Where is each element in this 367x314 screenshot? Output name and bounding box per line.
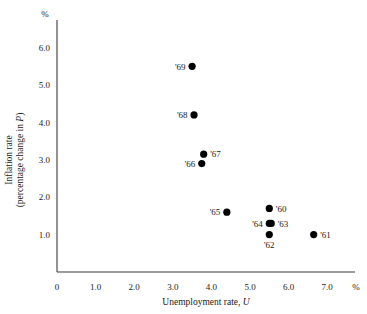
phillips-curve-chart: % % 1.02.03.04.05.06.0 01.02.03.04.05.06… (0, 0, 367, 314)
x-tick-label: 0 (55, 282, 60, 292)
x-tick-label: 3.0 (167, 282, 179, 292)
data-point-marker (190, 111, 197, 118)
y-tick-label: 3.0 (39, 155, 51, 165)
data-point-marker (200, 151, 207, 158)
data-point-marker (310, 231, 317, 238)
y-axis-title-line1: Inflation rate (4, 135, 14, 184)
data-point-label: '67 (210, 149, 221, 159)
data-point-marker (223, 209, 230, 216)
y-tick-label: 1.0 (39, 230, 51, 240)
data-point-marker (198, 160, 205, 167)
y-tick-label: 6.0 (39, 43, 51, 53)
data-point-label: '69 (175, 62, 186, 72)
x-axis-unit-label: % (352, 282, 360, 292)
data-point-label: '66 (185, 159, 196, 169)
data-point-label: '63 (278, 219, 289, 229)
y-axis-tick-labels: 1.02.03.04.05.06.0 (39, 43, 51, 240)
y-tick-label: 4.0 (39, 118, 51, 128)
data-point-marker (266, 205, 273, 212)
x-tick-label: 5.0 (244, 282, 256, 292)
data-point-marker (189, 63, 196, 70)
x-tick-label: 4.0 (206, 282, 218, 292)
data-point-label: '62 (264, 240, 275, 250)
y-axis-title: Inflation rate (percentage change in P) (4, 113, 26, 208)
x-tick-label: 2.0 (129, 282, 141, 292)
data-point-label: '68 (177, 110, 188, 120)
data-point-marker (266, 220, 273, 227)
x-tick-label: 1.0 (90, 282, 102, 292)
y-axis-unit-label: % (41, 9, 49, 19)
data-point-marker (266, 231, 273, 238)
x-tick-label: 7.0 (322, 282, 334, 292)
y-tick-label: 2.0 (39, 192, 51, 202)
data-point-label: '61 (320, 230, 331, 240)
data-points-layer: '60'61'62'63'64'65'66'67'68'69 (175, 62, 331, 250)
y-tick-label: 5.0 (39, 80, 51, 90)
x-tick-label: 6.0 (283, 282, 295, 292)
data-point-label: '64 (252, 219, 263, 229)
x-axis-tick-labels: 01.02.03.04.05.06.07.0 (55, 282, 334, 292)
data-point-label: '60 (276, 204, 287, 214)
y-axis-title-line2: (percentage change in P) (15, 113, 26, 208)
scatter-plot-svg: % % 1.02.03.04.05.06.0 01.02.03.04.05.06… (0, 0, 367, 314)
data-point-label: '65 (210, 207, 221, 217)
x-axis-title: Unemployment rate, U (162, 297, 250, 307)
